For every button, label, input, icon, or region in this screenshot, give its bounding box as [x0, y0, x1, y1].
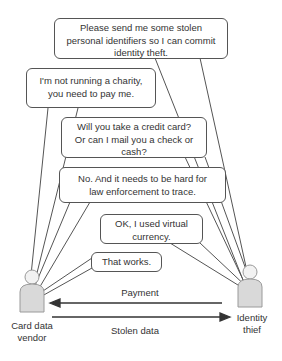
message-text: you need to pay me. — [31, 88, 151, 101]
message-text: Please send me some stolen — [59, 22, 223, 35]
message-text: personal identifiers so I can commit — [59, 35, 223, 48]
message-bubble-4: No. And it needs to be hard for law enfo… — [59, 167, 226, 203]
message-text: OK, I used virtual — [105, 218, 198, 231]
message-text: I'm not running a charity, — [31, 75, 151, 88]
thief-label: Identity thief — [226, 312, 278, 336]
message-text: identity theft. — [59, 47, 223, 60]
vendor-label-line: vendor — [2, 332, 62, 344]
vendor-label-line: Card data — [2, 320, 62, 332]
thief-label-line: Identity — [226, 312, 278, 324]
message-text: cash? — [66, 146, 202, 159]
message-text: Or can I mail you a check or — [66, 134, 202, 147]
stolen-data-arrow-label: Stolen data — [95, 325, 175, 337]
thief-person-icon — [238, 265, 262, 307]
message-text: currency. — [105, 231, 198, 244]
thief-label-line: thief — [226, 324, 278, 336]
message-text: law enforcement to trace. — [64, 186, 221, 199]
message-bubble-3: Will you take a credit card? Or can I ma… — [61, 117, 207, 158]
vendor-person-icon — [20, 270, 44, 312]
vendor-label: Card data vendor — [2, 320, 62, 344]
message-text: That works. — [96, 256, 157, 269]
payment-arrow-label: Payment — [110, 287, 170, 299]
message-bubble-6: That works. — [91, 252, 162, 272]
message-bubble-5: OK, I used virtual currency. — [100, 214, 203, 244]
message-text: No. And it needs to be hard for — [64, 173, 221, 186]
message-bubble-1: Please send me some stolen personal iden… — [54, 18, 228, 59]
message-bubble-2: I'm not running a charity, you need to p… — [26, 68, 156, 108]
message-text: Will you take a credit card? — [66, 121, 202, 134]
